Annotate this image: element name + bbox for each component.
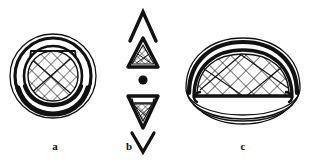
figure-label-a: a bbox=[0, 141, 110, 152]
center-dot bbox=[138, 75, 147, 84]
figure-label-b: b bbox=[110, 141, 148, 152]
lower-triangle-rim bbox=[132, 99, 154, 103]
figure-label-c: c bbox=[176, 141, 310, 152]
figure-b-drawing bbox=[110, 0, 176, 164]
figure-panel-b: b bbox=[110, 0, 176, 164]
figure-plate: a bbox=[0, 0, 310, 164]
figure-panel-a: a bbox=[0, 0, 110, 164]
base-arc-inner bbox=[202, 112, 284, 124]
figure-panel-c: c bbox=[176, 0, 310, 164]
